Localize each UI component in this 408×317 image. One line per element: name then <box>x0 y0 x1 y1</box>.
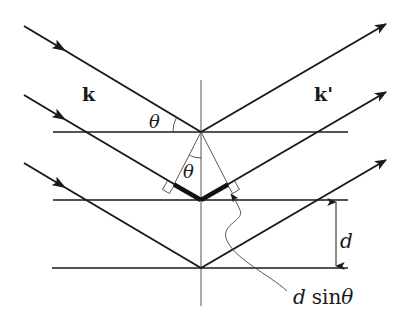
incident-ray-1 <box>24 26 201 132</box>
incident-ray-3 <box>24 163 201 268</box>
label-k-prime: k' <box>314 83 333 105</box>
ray-3 <box>24 160 386 268</box>
angle-arc-center <box>190 155 202 158</box>
reflected-ray-3 <box>201 160 386 268</box>
label-d-sin-theta: dsinθ <box>293 285 353 309</box>
angle-arc-left <box>173 118 177 133</box>
path-difference-left <box>174 185 201 201</box>
bragg-diffraction-diagram: k k' θ θ d dsinθ <box>0 0 408 317</box>
leader-arrow <box>226 194 287 291</box>
ray-2 <box>24 92 386 200</box>
label-theta-center: θ <box>183 161 194 182</box>
reflected-ray-2 <box>201 92 386 200</box>
label-k: k <box>82 83 96 105</box>
ray-1 <box>24 24 386 132</box>
label-d: d <box>340 229 353 253</box>
perpendicular-right <box>201 132 228 185</box>
reflected-ray-1 <box>201 24 386 132</box>
path-difference-right <box>201 185 228 201</box>
label-theta-left: θ <box>149 111 160 132</box>
